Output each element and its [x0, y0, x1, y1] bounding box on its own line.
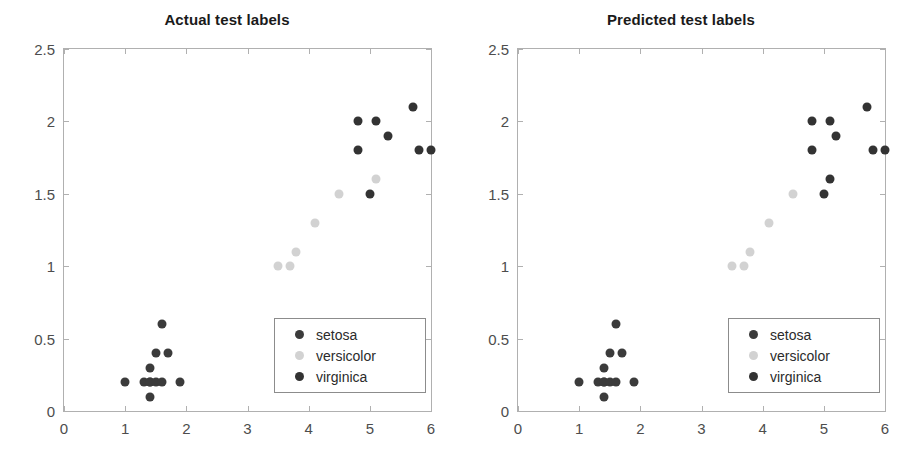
y-axis-tick [518, 266, 523, 267]
x-axis-tick [885, 406, 886, 411]
y-axis-tick-label: 2.5 [34, 41, 55, 58]
legend-item-virginica[interactable]: virginica [736, 366, 870, 387]
data-point-virginica [408, 102, 417, 111]
y-axis-tick-right [426, 339, 431, 340]
legend-label: versicolor [770, 348, 830, 364]
data-point-setosa [145, 363, 154, 372]
data-point-virginica [807, 117, 816, 126]
axes-predicted: 012345600.511.522.5setosaversicolorvirgi… [517, 48, 886, 412]
y-axis-tick-label: 2.5 [488, 41, 509, 58]
x-axis-tick-top [640, 49, 641, 54]
legend-marker-cell [736, 372, 770, 381]
data-point-setosa [163, 349, 172, 358]
legend-item-setosa[interactable]: setosa [736, 324, 870, 345]
x-axis-tick-top [248, 49, 249, 54]
y-axis-tick [64, 49, 69, 50]
legend-marker-cell [736, 351, 770, 360]
legend-item-versicolor[interactable]: versicolor [736, 345, 870, 366]
data-point-virginica [427, 146, 436, 155]
x-axis-tick-top [125, 49, 126, 54]
axes-actual: 012345600.511.522.5setosaversicolorvirgi… [63, 48, 432, 412]
x-axis-tick-top [885, 49, 886, 54]
legend-item-setosa[interactable]: setosa [282, 324, 416, 345]
y-axis-tick-right [880, 49, 885, 50]
legend-marker-cell [282, 372, 316, 381]
x-axis-tick-top [370, 49, 371, 54]
x-axis-tick [640, 406, 641, 411]
legend-marker-cell [736, 330, 770, 339]
y-axis-tick [64, 266, 69, 267]
y-axis-tick-right [426, 49, 431, 50]
y-axis-tick [518, 339, 523, 340]
x-axis-tick [579, 406, 580, 411]
x-axis-tick-label: 6 [881, 420, 889, 437]
legend-label: virginica [316, 369, 367, 385]
x-axis-tick-top [309, 49, 310, 54]
data-point-versicolor [746, 247, 755, 256]
y-axis-tick-right [426, 194, 431, 195]
x-axis-tick-top [763, 49, 764, 54]
legend-marker-versicolor-icon [749, 351, 758, 360]
x-axis-tick [125, 406, 126, 411]
data-point-virginica [371, 117, 380, 126]
y-axis-tick-label: 2 [47, 113, 55, 130]
y-axis-tick [64, 411, 69, 412]
y-axis-tick-right [880, 266, 885, 267]
legend-marker-cell [282, 351, 316, 360]
x-axis-tick [824, 406, 825, 411]
x-axis-tick-label: 4 [304, 420, 312, 437]
y-axis-tick-right [880, 194, 885, 195]
data-point-versicolor [335, 189, 344, 198]
x-axis-tick-top [579, 49, 580, 54]
data-point-setosa [157, 378, 166, 387]
legend-label: setosa [316, 327, 357, 343]
legend-marker-virginica-icon [295, 372, 304, 381]
legend-actual[interactable]: setosaversicolorvirginica [274, 318, 426, 393]
legend-predicted[interactable]: setosaversicolorvirginica [728, 318, 880, 393]
legend-label: virginica [770, 369, 821, 385]
data-point-setosa [630, 378, 639, 387]
x-axis-tick-top [824, 49, 825, 54]
x-axis-tick-top [702, 49, 703, 54]
legend-marker-virginica-icon [749, 372, 758, 381]
y-axis-tick-right [426, 411, 431, 412]
legend-label: setosa [770, 327, 811, 343]
data-point-setosa [157, 320, 166, 329]
y-axis-tick [518, 194, 523, 195]
y-axis-tick-right [426, 121, 431, 122]
y-axis-tick-right [880, 339, 885, 340]
data-point-setosa [611, 320, 620, 329]
x-axis-tick-label: 1 [121, 420, 129, 437]
x-axis-tick-label: 5 [820, 420, 828, 437]
y-axis-tick [518, 121, 523, 122]
y-axis-tick [518, 49, 523, 50]
panel-title-actual: Actual test labels [0, 11, 454, 28]
legend-item-versicolor[interactable]: versicolor [282, 345, 416, 366]
x-axis-tick-label: 2 [636, 420, 644, 437]
y-axis-tick-label: 0.5 [34, 330, 55, 347]
legend-marker-cell [282, 330, 316, 339]
x-axis-tick [248, 406, 249, 411]
x-axis-tick-label: 2 [182, 420, 190, 437]
x-axis-tick [186, 406, 187, 411]
legend-marker-versicolor-icon [295, 351, 304, 360]
data-point-versicolor [286, 262, 295, 271]
data-point-virginica [365, 189, 374, 198]
y-axis-tick-label: 1.5 [34, 185, 55, 202]
data-point-versicolor [728, 262, 737, 271]
x-axis-tick-label: 5 [366, 420, 374, 437]
x-axis-tick [763, 406, 764, 411]
data-point-virginica [353, 146, 362, 155]
legend-item-virginica[interactable]: virginica [282, 366, 416, 387]
y-axis-tick [64, 339, 69, 340]
panel-predicted: Predicted test labels 012345600.511.522.… [454, 0, 908, 471]
y-axis-tick-label: 1 [501, 258, 509, 275]
data-point-versicolor [764, 218, 773, 227]
x-axis-tick [370, 406, 371, 411]
data-point-versicolor [292, 247, 301, 256]
data-point-virginica [819, 189, 828, 198]
legend-label: versicolor [316, 348, 376, 364]
y-axis-tick-right [880, 121, 885, 122]
data-point-setosa [151, 349, 160, 358]
data-point-versicolor [274, 262, 283, 271]
